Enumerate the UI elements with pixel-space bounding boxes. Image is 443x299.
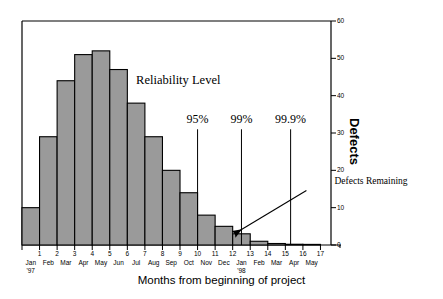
x-tick-number: 5 bbox=[103, 250, 117, 257]
x-tick-number: 9 bbox=[173, 250, 187, 257]
y-tick-label: 60 bbox=[337, 17, 344, 24]
bar bbox=[127, 103, 145, 245]
x-tick-number: 7 bbox=[138, 250, 152, 257]
x-axis-title: Months from beginning of project bbox=[0, 274, 443, 286]
bar bbox=[285, 244, 303, 245]
x-month-label: May bbox=[301, 259, 323, 266]
x-tick-number: 4 bbox=[85, 250, 99, 257]
bar bbox=[215, 226, 233, 245]
reliability-label-99: 99% bbox=[230, 112, 252, 127]
bar bbox=[110, 70, 128, 245]
x-tick-number: 2 bbox=[50, 250, 64, 257]
reliability-label-99-9: 99.9% bbox=[275, 112, 306, 127]
bar bbox=[40, 137, 58, 245]
y-tick-label: 30 bbox=[337, 129, 344, 136]
y-tick-label: 40 bbox=[337, 92, 344, 99]
y-axis-title: Defects bbox=[347, 118, 362, 165]
bar bbox=[250, 241, 268, 245]
bar bbox=[303, 244, 321, 245]
x-tick-number: 8 bbox=[155, 250, 169, 257]
x-year-label: '98 bbox=[230, 267, 252, 274]
bar bbox=[162, 170, 180, 245]
defects-remaining-arrow bbox=[234, 190, 306, 233]
x-tick-number: 1 bbox=[33, 250, 47, 257]
reliability-level-heading: Reliability Level bbox=[136, 73, 220, 88]
x-tick-number: 10 bbox=[191, 250, 205, 257]
x-tick-number: 17 bbox=[313, 250, 327, 257]
bar bbox=[92, 51, 110, 245]
bar bbox=[198, 215, 216, 245]
y-axis-ticks-group bbox=[331, 21, 336, 245]
bar bbox=[57, 81, 75, 245]
x-tick-number: 6 bbox=[120, 250, 134, 257]
y-tick-label: 20 bbox=[337, 166, 344, 173]
x-tick-number: 16 bbox=[296, 250, 310, 257]
x-year-label: '97 bbox=[20, 267, 42, 274]
bar bbox=[268, 244, 286, 245]
bar bbox=[180, 193, 198, 245]
y-tick-label: 50 bbox=[337, 54, 344, 61]
x-tick-number: 11 bbox=[208, 250, 222, 257]
defects-remaining-label: Defects Remaining bbox=[335, 176, 408, 186]
x-tick-number: 13 bbox=[243, 250, 257, 257]
x-tick-number: 3 bbox=[68, 250, 82, 257]
x-tick-number: 14 bbox=[261, 250, 275, 257]
bar bbox=[22, 208, 40, 245]
reliability-label-95: 95% bbox=[187, 112, 209, 127]
chart-figure: Reliability Level 95% 99% 99.9% Defects … bbox=[0, 0, 443, 299]
x-tick-number: 15 bbox=[278, 250, 292, 257]
y-tick-label: 10 bbox=[337, 204, 344, 211]
bar bbox=[75, 55, 93, 245]
y-tick-label: 0 bbox=[337, 241, 341, 248]
x-tick-number: 12 bbox=[226, 250, 240, 257]
bar bbox=[145, 137, 163, 245]
